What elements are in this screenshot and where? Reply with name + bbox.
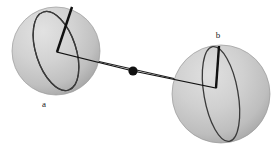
figure-root: a b: [0, 0, 277, 151]
sphere-a-label: a: [42, 99, 46, 109]
sphere-b-label: b: [216, 30, 221, 40]
source-dot: [128, 66, 137, 75]
sphere-b-body: [172, 45, 270, 143]
sphere-a-body: [12, 7, 100, 95]
figure-canvas: a b: [0, 0, 277, 151]
